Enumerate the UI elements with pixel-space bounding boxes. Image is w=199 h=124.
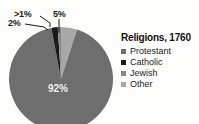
slice-label-catholic: 2% <box>8 19 21 28</box>
legend-title: Religions, 1760 <box>121 32 199 43</box>
legend-swatch-icon <box>121 82 126 87</box>
legend-swatch-icon <box>121 71 126 76</box>
pie-chart-figure: >1% 2% 5% 92% Religions, 1760 Protestant… <box>0 0 199 124</box>
pie-svg <box>8 26 114 124</box>
legend-label-protestant: Protestant <box>130 46 171 56</box>
legend-label-other: Other <box>130 79 153 89</box>
legend-item-catholic: Catholic <box>121 57 199 67</box>
legend-label-catholic: Catholic <box>130 57 163 67</box>
legend-item-jewish: Jewish <box>121 68 199 78</box>
slice-label-other: 5% <box>53 10 66 19</box>
legend-item-other: Other <box>121 79 199 89</box>
legend-swatch-icon <box>121 60 126 65</box>
legend-label-jewish: Jewish <box>130 68 158 78</box>
slice-label-protestant: 92% <box>48 84 68 94</box>
legend-item-protestant: Protestant <box>121 46 199 56</box>
chart-legend: Religions, 1760 Protestant Catholic Jewi… <box>121 32 199 90</box>
legend-swatch-icon <box>121 49 126 54</box>
pie-chart-graphic <box>8 26 114 124</box>
